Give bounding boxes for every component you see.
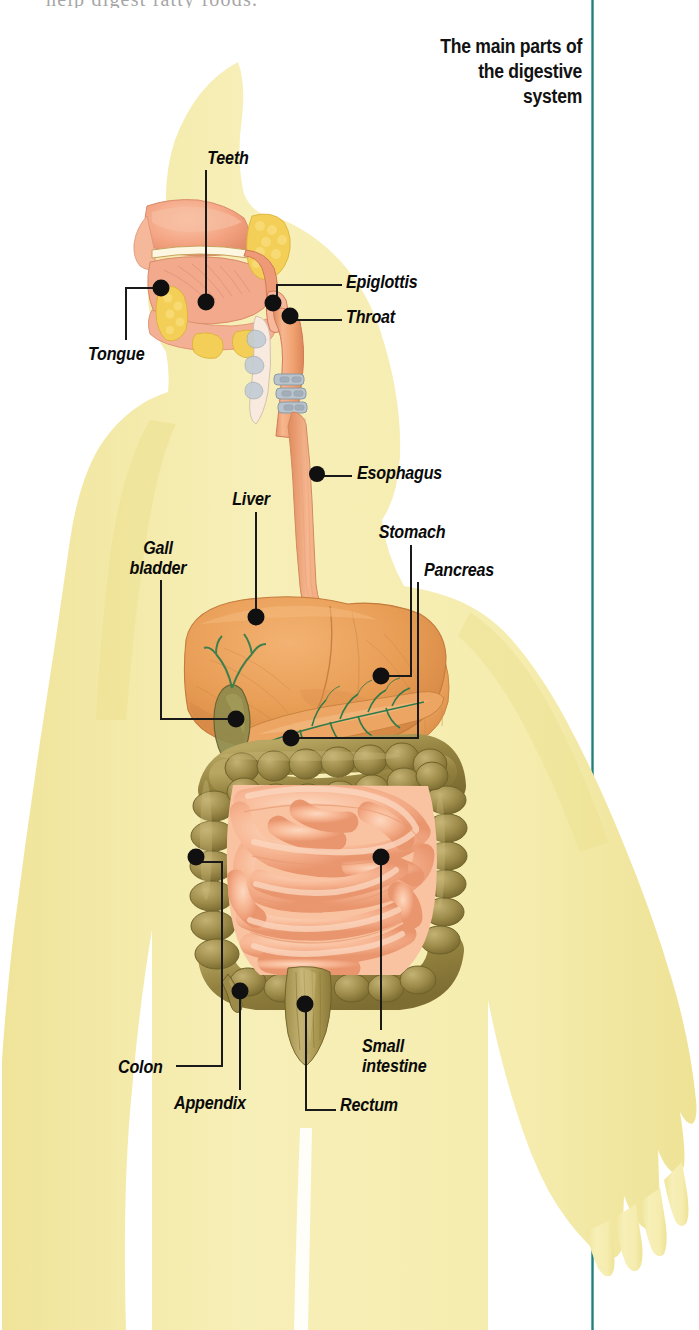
label-tongue: Tongue [88,345,144,364]
anatomy-illustration [0,0,699,1330]
digestive-system-figure: help digest fatty foods. The main parts … [0,0,699,1330]
dot-appendix [232,983,249,1000]
dot-small-intestine [373,849,390,866]
dot-epiglottis [265,295,282,312]
label-small-intestine: Small intestine [362,1036,454,1076]
label-teeth: Teeth [191,149,265,168]
label-throat: Throat [346,308,395,327]
label-stomach: Stomach [370,523,455,542]
dot-gall-bladder [228,711,245,728]
label-appendix: Appendix [174,1094,246,1113]
dot-pancreas [283,730,300,747]
dot-stomach [373,668,390,685]
label-rectum: Rectum [340,1096,398,1115]
dot-throat [282,308,299,325]
label-epiglottis: Epiglottis [346,273,418,292]
trachea-rings [274,374,307,413]
dot-colon [188,849,205,866]
dot-tongue [153,280,170,297]
dot-teeth [198,294,215,311]
label-colon: Colon [118,1058,163,1077]
label-pancreas: Pancreas [424,561,494,580]
dot-esophagus [309,466,325,482]
label-liver: Liver [215,490,287,509]
label-gall-bladder: Gall bladder [114,538,202,578]
small-intestine-structure [220,775,450,985]
dot-liver [248,609,265,626]
label-esophagus: Esophagus [357,464,442,483]
dot-rectum [297,996,314,1013]
